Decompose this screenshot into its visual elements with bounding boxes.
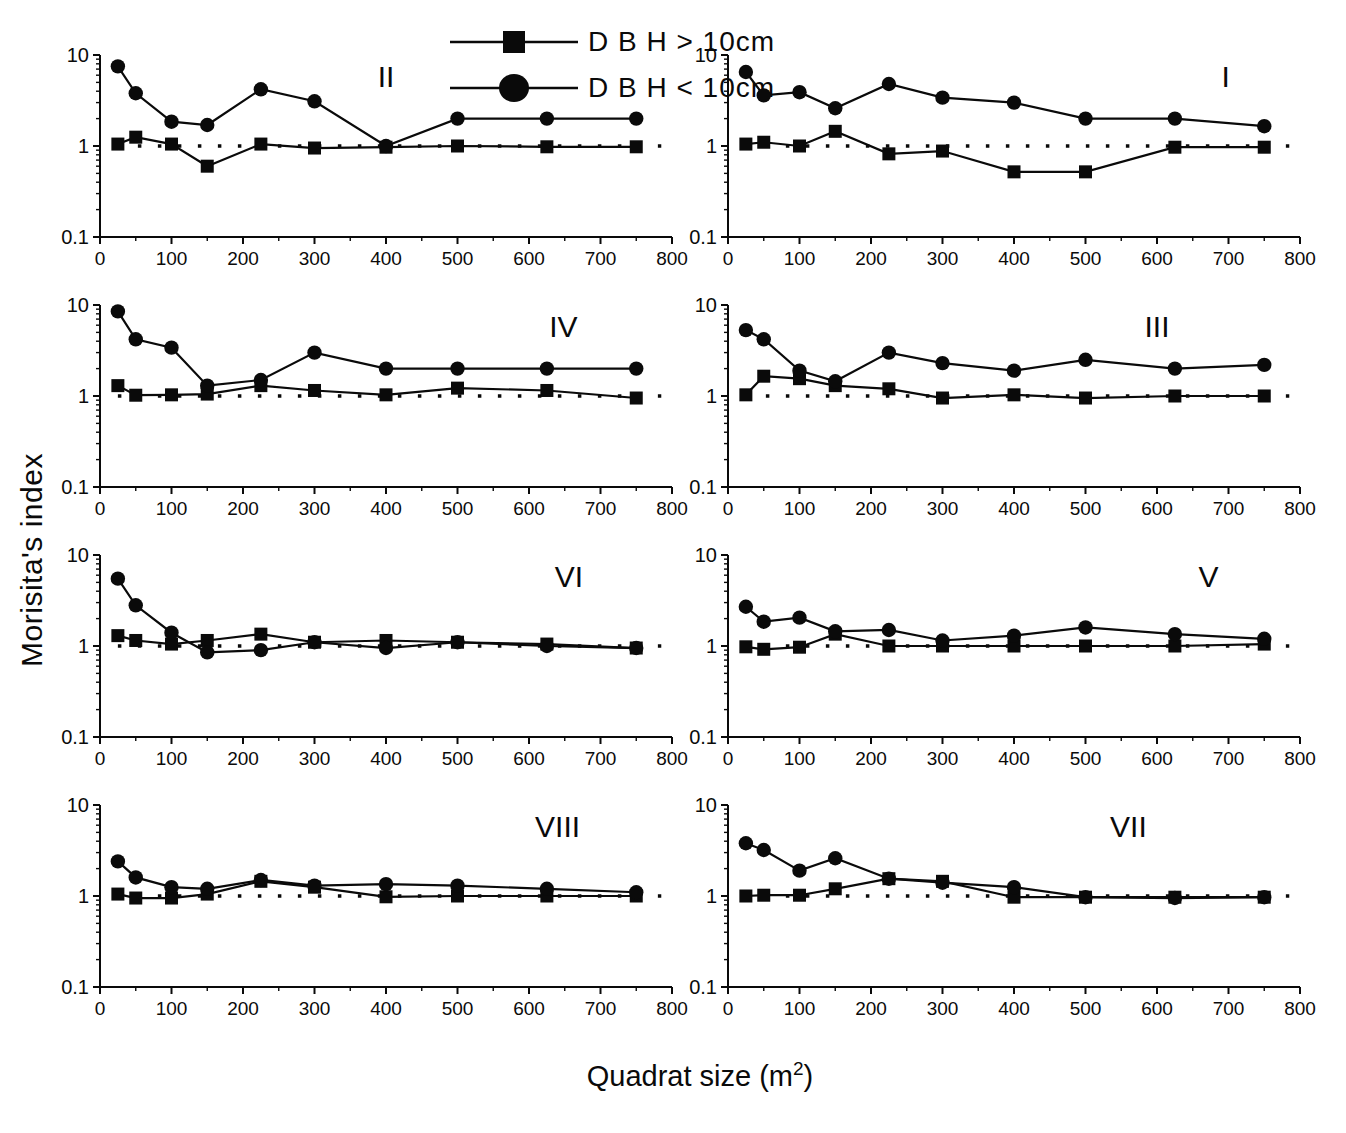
data-point-circle: [129, 598, 143, 612]
x-tick-label: 700: [585, 998, 617, 1019]
data-point-circle: [739, 836, 753, 850]
data-point-circle: [792, 363, 806, 377]
data-point-circle: [111, 59, 125, 73]
x-tick-label: 800: [1284, 498, 1316, 519]
x-tick-label: 600: [513, 998, 545, 1019]
series-line-dbh_lt_10cm: [746, 607, 1264, 641]
data-point-circle: [1257, 632, 1271, 646]
panel-label: VIII: [535, 810, 580, 843]
data-point-square: [630, 392, 643, 405]
x-tick-label: 0: [723, 498, 734, 519]
data-point-circle: [1007, 363, 1021, 377]
y-tick-label: 10: [67, 44, 89, 66]
data-point-circle: [1257, 358, 1271, 372]
panel-label: V: [1198, 560, 1218, 593]
x-tick-label: 400: [998, 748, 1030, 769]
panel-V: 01002003004005006007008000.1110V: [666, 539, 1326, 797]
data-point-circle: [629, 641, 643, 655]
y-tick-label: 1: [706, 385, 717, 407]
x-tick-label: 400: [370, 998, 402, 1019]
x-axis-label-text: Quadrat size (m2): [587, 1060, 814, 1092]
data-point-circle: [792, 863, 806, 877]
data-point-square: [1168, 640, 1181, 653]
data-point-square: [129, 634, 142, 647]
data-point-square: [757, 370, 770, 383]
x-tick-label: 500: [442, 248, 474, 269]
data-point-square: [540, 140, 553, 153]
data-point-square: [1079, 640, 1092, 653]
data-point-square: [1079, 392, 1092, 405]
data-point-square: [739, 640, 752, 653]
x-tick-label: 500: [442, 498, 474, 519]
data-point-square: [254, 138, 267, 151]
data-point-circle: [450, 878, 464, 892]
data-point-circle: [629, 361, 643, 375]
data-point-square: [1008, 165, 1021, 178]
data-point-circle: [111, 304, 125, 318]
data-point-square: [129, 389, 142, 402]
data-point-circle: [1078, 890, 1092, 904]
y-tick-label: 10: [67, 794, 89, 816]
x-tick-label: 500: [1070, 748, 1102, 769]
data-point-circle: [757, 843, 771, 857]
data-point-square: [793, 889, 806, 902]
data-point-circle: [254, 873, 268, 887]
data-point-circle: [739, 600, 753, 614]
data-point-square: [1079, 165, 1092, 178]
data-point-square: [165, 388, 178, 401]
data-point-square: [451, 140, 464, 153]
data-point-circle: [164, 340, 178, 354]
data-point-circle: [200, 645, 214, 659]
y-tick-label: 10: [67, 294, 89, 316]
data-point-circle: [164, 880, 178, 894]
data-point-circle: [164, 626, 178, 640]
data-point-square: [882, 382, 895, 395]
x-tick-label: 300: [927, 748, 959, 769]
x-tick-label: 300: [299, 498, 331, 519]
data-point-square: [380, 890, 393, 903]
y-tick-label: 0.1: [61, 226, 89, 248]
square-marker-icon: [448, 22, 580, 62]
y-tick-label: 0.1: [61, 726, 89, 748]
x-tick-label: 300: [927, 998, 959, 1019]
data-point-circle: [111, 571, 125, 585]
x-tick-label: 700: [585, 748, 617, 769]
data-point-circle: [540, 111, 554, 125]
data-point-circle: [882, 871, 896, 885]
panel-VIII: 01002003004005006007008000.1110VIII: [38, 789, 698, 1047]
x-tick-label: 300: [299, 748, 331, 769]
panel-VII: 01002003004005006007008000.1110VII: [666, 789, 1326, 1047]
x-tick-label: 0: [95, 998, 106, 1019]
y-tick-label: 1: [706, 135, 717, 157]
data-point-circle: [935, 356, 949, 370]
y-tick-label: 1: [706, 635, 717, 657]
data-point-square: [165, 138, 178, 151]
data-point-circle: [1257, 890, 1271, 904]
series-line-dbh_gt_10cm: [746, 131, 1264, 172]
data-point-square: [254, 628, 267, 641]
data-point-circle: [935, 90, 949, 104]
data-point-circle: [882, 345, 896, 359]
data-point-circle: [1007, 880, 1021, 894]
data-point-circle: [1168, 627, 1182, 641]
data-point-square: [793, 140, 806, 153]
x-tick-label: 600: [1141, 248, 1173, 269]
x-tick-label: 200: [855, 498, 887, 519]
x-tick-label: 200: [227, 248, 259, 269]
x-tick-label: 0: [95, 248, 106, 269]
y-tick-label: 0.1: [689, 976, 717, 998]
data-point-circle: [254, 373, 268, 387]
x-tick-label: 100: [784, 748, 816, 769]
x-tick-label: 300: [299, 248, 331, 269]
y-tick-label: 0.1: [689, 226, 717, 248]
x-tick-label: 800: [1284, 248, 1316, 269]
data-point-square: [451, 382, 464, 395]
data-point-square: [793, 641, 806, 654]
data-point-circle: [882, 77, 896, 91]
data-point-circle: [1168, 361, 1182, 375]
x-tick-label: 300: [927, 248, 959, 269]
series-line-dbh_lt_10cm: [746, 330, 1264, 381]
panel-label: III: [1144, 310, 1169, 343]
y-tick-label: 1: [78, 135, 89, 157]
x-tick-label: 700: [585, 498, 617, 519]
